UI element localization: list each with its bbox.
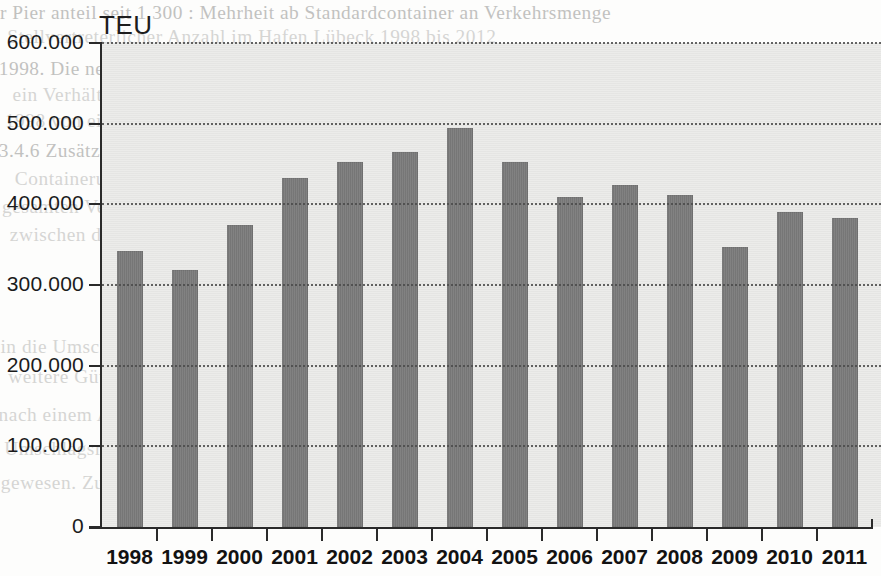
x-axis-tick-label: 2006	[542, 545, 598, 569]
bar	[722, 247, 748, 527]
y-axis-tick-label: 600.000	[0, 30, 84, 54]
y-axis-unit-label: TEU	[99, 10, 153, 41]
gridline	[102, 123, 881, 125]
bar	[337, 162, 363, 527]
bar	[777, 212, 803, 527]
x-axis-tick	[211, 529, 213, 541]
bar	[227, 225, 253, 527]
y-axis-tick-label: 300.000	[0, 272, 84, 296]
y-axis-tick	[89, 526, 102, 528]
bar	[172, 270, 198, 527]
x-axis-tick-label: 2003	[377, 545, 433, 569]
x-axis-tick-label: 2002	[322, 545, 378, 569]
y-axis-tick	[89, 42, 102, 44]
bar	[282, 178, 308, 527]
gridline	[102, 365, 881, 367]
x-axis-tick-label: 1999	[157, 545, 213, 569]
x-axis-tick	[486, 529, 488, 541]
gridline	[102, 42, 881, 44]
ghost-text-line: r Pier anteil seit 1 300 : Mehrheit ab S…	[0, 2, 611, 24]
x-axis-tick	[376, 529, 378, 541]
y-axis-tick-label: 100.000	[0, 433, 84, 457]
x-axis-tick	[596, 529, 598, 541]
x-axis-tick	[321, 529, 323, 541]
y-axis-tick	[89, 445, 102, 447]
y-axis-tick	[89, 365, 102, 367]
y-axis-tick	[89, 284, 102, 286]
x-axis-tick	[156, 529, 158, 541]
bar	[447, 128, 473, 527]
x-axis-tick-label: 2000	[212, 545, 268, 569]
x-axis-line	[89, 527, 873, 529]
x-axis-tick	[651, 529, 653, 541]
x-axis-tick	[761, 529, 763, 541]
x-axis-tick-label: 2010	[762, 545, 818, 569]
x-axis-tick-label: 2004	[432, 545, 488, 569]
x-axis-tick-label: 2007	[597, 545, 653, 569]
bar	[667, 195, 693, 527]
x-axis-tick	[431, 529, 433, 541]
x-axis-tick	[706, 529, 708, 541]
x-axis-tick-label: 2011	[817, 545, 873, 569]
x-axis-tick-label: 2005	[487, 545, 543, 569]
y-axis-tick	[89, 203, 102, 205]
bar	[502, 162, 528, 527]
x-axis-tick-label: 2001	[267, 545, 323, 569]
bar	[117, 251, 143, 527]
x-axis-tick-label: 2009	[707, 545, 763, 569]
bar	[612, 185, 638, 527]
y-axis-tick-label: 200.000	[0, 353, 84, 377]
gridline	[102, 203, 881, 205]
y-axis-tick-label: 500.000	[0, 111, 84, 135]
x-axis-tick	[541, 529, 543, 541]
y-axis-tick	[89, 123, 102, 125]
x-axis-tick	[816, 529, 818, 541]
gridline	[102, 284, 881, 286]
x-axis-tick-label: 2008	[652, 545, 708, 569]
y-axis-tick-label: 0	[0, 514, 84, 538]
gridline	[102, 445, 881, 447]
x-axis-tick-label: 1998	[102, 545, 158, 569]
scanned-page: r Pier anteil seit 1 300 : Mehrheit ab S…	[0, 0, 881, 576]
y-axis-tick-label: 400.000	[0, 191, 84, 215]
bar	[392, 152, 418, 527]
bar	[832, 218, 858, 527]
x-axis-tick	[266, 529, 268, 541]
bar	[557, 197, 583, 527]
x-axis-end-tick	[871, 519, 873, 529]
